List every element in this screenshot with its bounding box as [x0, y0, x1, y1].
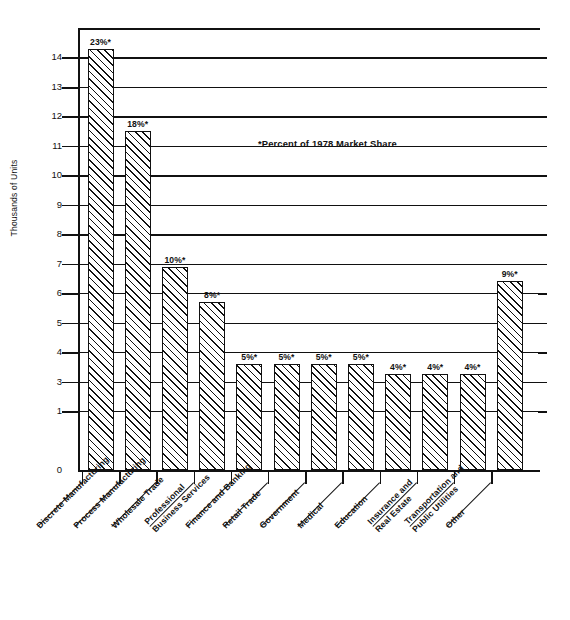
y-tick-mark-right: [538, 205, 547, 207]
y-tick-mark-right: [538, 175, 547, 177]
y-tick-label: 14: [40, 52, 62, 62]
category-label: Medical: [295, 500, 325, 530]
y-tick-mark: [62, 146, 79, 148]
category-label-line: Other: [444, 507, 468, 531]
y-tick-label: 6: [40, 288, 62, 298]
y-tick-mark: [62, 57, 79, 59]
gridline: [78, 87, 540, 88]
y-axis-line: [78, 28, 80, 472]
y-tick-mark: [62, 293, 79, 295]
bar: [88, 49, 114, 470]
x-tick-mark: [268, 470, 269, 484]
bar-value-label: 18%*: [116, 119, 160, 129]
y-tick-mark-right: [538, 57, 547, 59]
plot-border-top: [78, 28, 540, 30]
bar-value-label: 5%*: [339, 352, 383, 362]
y-tick-mark-right: [538, 116, 547, 118]
y-tick-mark: [62, 264, 79, 266]
bar: [199, 302, 225, 470]
bar: [274, 364, 300, 470]
y-tick-mark-right: [538, 87, 547, 89]
bar: [125, 131, 151, 470]
chart-annotation: *Percent of 1978 Market Share: [258, 138, 397, 149]
bar: [162, 267, 188, 470]
bar-value-label: 9%*: [488, 269, 532, 279]
y-tick-mark: [62, 234, 79, 236]
bar: [497, 281, 523, 470]
bar: [460, 374, 486, 470]
bar: [422, 374, 448, 470]
y-tick-mark-right: [538, 382, 547, 384]
y-tick-label: 3: [40, 377, 62, 387]
y-tick-label: 1: [40, 406, 62, 416]
y-tick-label: 7: [40, 259, 62, 269]
bar-value-label: 8%*: [190, 290, 234, 300]
y-tick-label: 13: [40, 82, 62, 92]
x-tick-mark: [305, 470, 306, 484]
y-tick-mark-right: [538, 323, 547, 325]
y-tick-mark: [62, 116, 79, 118]
y-tick-mark-right: [538, 293, 547, 295]
x-axis-line: [78, 470, 540, 472]
y-tick-mark-right: [538, 352, 547, 354]
x-tick-mark: [491, 470, 492, 484]
y-tick-mark: [62, 352, 79, 354]
bar-value-label: 10%*: [153, 255, 197, 265]
bar-chart: Thousands of Units 1413121110987654310 2…: [0, 0, 570, 620]
y-tick-label: 9: [40, 200, 62, 210]
plot-area: 23%*18%*10%*8%*5%*5%*5%*5%*4%*4%*4%*9%*: [78, 28, 540, 472]
x-tick-mark: [380, 470, 381, 484]
x-tick-mark: [342, 470, 343, 484]
bar: [311, 364, 337, 470]
y-tick-label: 4: [40, 347, 62, 357]
y-tick-mark-right: [538, 146, 547, 148]
category-label-line: Education: [332, 493, 369, 530]
y-tick-label: 5: [40, 318, 62, 328]
y-tick-mark-right: [538, 264, 547, 266]
y-tick-mark-right: [538, 411, 547, 413]
category-label: Other: [444, 507, 468, 531]
y-tick-label: 8: [40, 229, 62, 239]
y-axis-title: Thousands of Units: [9, 128, 25, 268]
y-tick-mark: [62, 175, 79, 177]
y-tick-label: 10: [40, 170, 62, 180]
bar: [385, 374, 411, 470]
y-tick-mark-right: [538, 234, 547, 236]
y-tick-label: 11: [40, 141, 62, 151]
category-label: Education: [332, 493, 369, 530]
y-tick-mark: [62, 411, 79, 413]
x-tick-mark: [417, 470, 418, 484]
y-tick-label: 0: [40, 465, 62, 475]
gridline: [78, 57, 540, 58]
bar: [348, 364, 374, 470]
category-label-line: Medical: [295, 500, 325, 530]
category-label: ProfessionalBusiness Services: [142, 464, 212, 534]
y-tick-mark: [62, 205, 79, 207]
y-tick-mark: [62, 87, 79, 89]
y-tick-label: 12: [40, 111, 62, 121]
y-tick-mark: [62, 382, 79, 384]
bar-value-label: 23%*: [79, 37, 123, 47]
bar-value-label: 4%*: [451, 362, 495, 372]
gridline: [78, 116, 540, 117]
bar: [236, 364, 262, 470]
y-tick-mark: [62, 323, 79, 325]
